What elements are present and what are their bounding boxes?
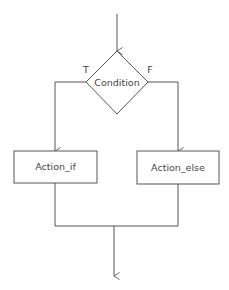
flowchart: Condition T F Action_if Action_else xyxy=(0,0,229,290)
action-if-node: Action_if xyxy=(14,151,97,183)
action-else-label: Action_else xyxy=(151,162,205,173)
decision-label: Condition xyxy=(94,77,139,88)
true-branch-label: T xyxy=(82,64,89,75)
false-branch-connector xyxy=(148,82,178,151)
merge-connector xyxy=(55,183,178,226)
action-else-node: Action_else xyxy=(137,151,219,184)
false-branch-label: F xyxy=(147,64,152,75)
decision-node: Condition xyxy=(86,51,148,114)
action-if-label: Action_if xyxy=(35,161,76,172)
true-branch-connector xyxy=(55,82,86,151)
